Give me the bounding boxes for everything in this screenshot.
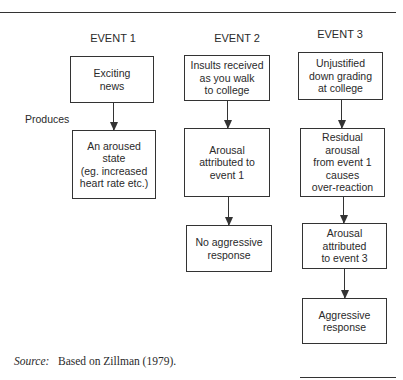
box-text: Insults received as you walk to college: [191, 59, 264, 97]
box-text: An aroused state (eg. increased heart ra…: [80, 140, 148, 190]
source-colon: :: [46, 355, 50, 367]
event-2-step-2-box: Arousal attributed to event 1: [184, 128, 270, 197]
event-1-title: EVENT 1: [83, 32, 143, 44]
box-text: Unjustified down grading at college: [309, 57, 372, 95]
box-text: Arousal attributed to event 1: [199, 144, 254, 182]
event-3-step-2-box: Residual arousal from event 1 causes ove…: [300, 128, 385, 197]
source-text: Based on Zillman (1979).: [58, 355, 176, 367]
event-2-title: EVENT 2: [197, 32, 277, 44]
event-1-step-1-box: Exciting news: [70, 56, 154, 103]
box-text: No aggressive response: [195, 236, 262, 261]
box-text: Arousal attributed to event 3: [321, 227, 367, 265]
event-2-step-3-box: No aggressive response: [186, 225, 272, 272]
event-3-step-1-box: Unjustified down grading at college: [298, 52, 383, 100]
box-text: Exciting news: [94, 67, 131, 92]
source-label: Source: [14, 355, 46, 367]
top-rule: [0, 12, 396, 13]
event-3-title: EVENT 3: [300, 28, 380, 40]
arrow-down: [344, 269, 345, 298]
arrow-down: [228, 197, 229, 225]
source-caption: Source: Based on Zillman (1979).: [14, 355, 176, 367]
arrow-down: [113, 103, 114, 130]
event-1-step-2-box: An aroused state (eg. increased heart ra…: [72, 130, 156, 199]
event-2-step-1-box: Insults received as you walk to college: [184, 55, 270, 101]
produces-label: Produces: [25, 113, 69, 125]
box-text: Residual arousal from event 1 causes ove…: [312, 131, 373, 194]
box-text: Aggressive response: [319, 309, 371, 334]
event-3-step-4-box: Aggressive response: [302, 298, 387, 344]
arrow-down: [341, 100, 342, 128]
event-3-step-3-box: Arousal attributed to event 3: [302, 223, 387, 269]
bottom-rule: [300, 377, 396, 378]
arrow-down: [343, 197, 344, 223]
arrow-down: [227, 101, 228, 128]
